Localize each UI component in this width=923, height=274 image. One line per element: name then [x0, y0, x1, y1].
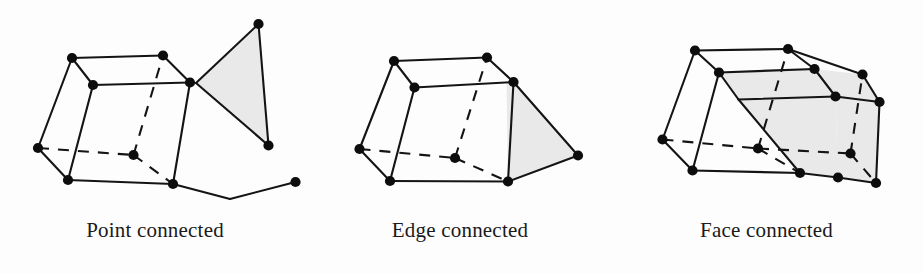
hidden-edge: [134, 56, 164, 156]
vertex-node: [830, 91, 840, 101]
panel-point-connected: Point connected: [0, 0, 310, 274]
solid-edge: [72, 58, 93, 85]
solid-edge: [695, 49, 788, 51]
vertex-node: [795, 168, 805, 178]
hidden-edge: [38, 148, 134, 155]
vertex-node: [845, 148, 855, 158]
solid-edge: [230, 182, 296, 199]
vertex-node: [714, 67, 724, 77]
caption-point-connected: Point connected: [0, 218, 310, 243]
vertex-node: [67, 53, 77, 63]
shaded-face: [507, 82, 579, 182]
vertex-node: [185, 77, 195, 87]
solid-edge: [693, 73, 720, 171]
vertex-node: [657, 134, 667, 144]
hidden-edge: [455, 58, 487, 159]
solid-edge: [390, 181, 508, 182]
vertex-node: [783, 44, 793, 54]
vertex-node: [389, 56, 399, 66]
vertex-node: [168, 179, 178, 189]
solid-edge: [360, 149, 391, 181]
solid-edge: [394, 58, 487, 62]
vertex-node: [871, 178, 881, 188]
vertex-node: [409, 82, 419, 92]
vertex-node: [753, 143, 763, 153]
solid-edge: [38, 58, 72, 148]
vertex-node: [482, 52, 492, 62]
solid-edge: [68, 180, 173, 184]
solid-edge: [360, 61, 395, 149]
solid-edge: [163, 56, 190, 83]
solid-edge: [663, 51, 696, 140]
vertex-node: [874, 97, 884, 107]
vertex-node: [63, 175, 73, 185]
vertex-node: [857, 69, 867, 79]
hidden-edge: [455, 158, 508, 182]
vertex-node: [354, 144, 364, 154]
panel-edge-connected: Edge connected: [310, 0, 610, 274]
hidden-edge: [663, 140, 759, 149]
panel-face-connected: Face connected: [610, 0, 923, 274]
vertex-node: [88, 80, 98, 90]
solid-edge: [173, 83, 190, 185]
hidden-edge: [134, 155, 174, 184]
caption-face-connected: Face connected: [610, 218, 923, 243]
solid-edge: [72, 56, 163, 59]
solid-edge: [93, 83, 190, 86]
solid-edge: [390, 88, 415, 182]
vertex-node: [158, 50, 168, 60]
vertex-node: [503, 176, 513, 186]
shaded-face: [196, 24, 269, 146]
vertex-node: [263, 140, 273, 150]
vertex-node: [290, 177, 300, 187]
vertex-node: [33, 143, 43, 153]
vertex-node: [508, 77, 518, 87]
vertex-node: [128, 150, 138, 160]
solid-edge: [663, 140, 693, 171]
solid-edge: [487, 58, 514, 83]
vertex-node: [809, 64, 819, 74]
vertex-node: [573, 150, 583, 160]
solid-edge: [415, 82, 514, 88]
vertex-node: [833, 172, 843, 182]
vertex-node: [450, 153, 460, 163]
vertex-node: [690, 45, 700, 55]
solid-edge: [693, 171, 801, 174]
figure-root: Point connected Edge connected Face conn…: [0, 0, 923, 274]
solid-edge: [173, 184, 230, 199]
vertex-node: [385, 176, 395, 186]
hidden-edge: [360, 149, 456, 158]
vertex-node: [687, 165, 697, 175]
solid-edge: [68, 85, 93, 180]
solid-edge: [38, 148, 68, 180]
vertex-node: [253, 19, 263, 29]
caption-edge-connected: Edge connected: [310, 218, 610, 243]
